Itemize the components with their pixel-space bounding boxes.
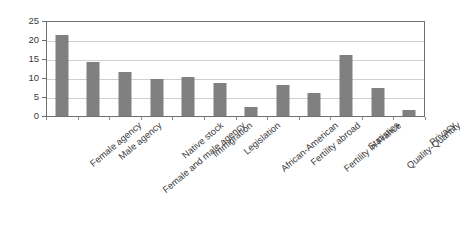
bar-slot bbox=[393, 21, 425, 116]
y-tick-label: 5 bbox=[34, 92, 39, 102]
bar[interactable] bbox=[118, 72, 131, 116]
bar-slot bbox=[78, 21, 110, 116]
bar-slot bbox=[299, 21, 331, 116]
bar-slot bbox=[267, 21, 299, 116]
x-axis-label-text: Statistics bbox=[367, 121, 402, 152]
x-axis-label: Statistics bbox=[367, 121, 402, 152]
bar-slot bbox=[141, 21, 173, 116]
bar-slot bbox=[204, 21, 236, 116]
y-tick-label: 15 bbox=[28, 54, 39, 64]
bar-slot bbox=[236, 21, 268, 116]
y-tick-label: 20 bbox=[28, 35, 39, 45]
x-tick-mark bbox=[425, 117, 426, 120]
x-axis-labels: Female agencyMale agencyFemale and male … bbox=[46, 116, 425, 225]
bar[interactable] bbox=[308, 93, 321, 116]
bar[interactable] bbox=[55, 35, 68, 116]
y-tick-label: 0 bbox=[34, 111, 39, 121]
y-tick-label: 10 bbox=[28, 73, 39, 83]
bar-slot bbox=[172, 21, 204, 116]
bar-slot bbox=[362, 21, 394, 116]
bar-slot bbox=[109, 21, 141, 116]
bars-group bbox=[46, 21, 425, 116]
y-tick-label: 25 bbox=[28, 16, 39, 26]
bar[interactable] bbox=[371, 88, 384, 116]
bar[interactable] bbox=[182, 77, 195, 116]
bar[interactable] bbox=[276, 85, 289, 116]
bar-slot bbox=[46, 21, 78, 116]
bar[interactable] bbox=[245, 107, 258, 116]
bar[interactable] bbox=[87, 62, 100, 116]
bar-slot bbox=[330, 21, 362, 116]
bar[interactable] bbox=[150, 79, 163, 116]
bar[interactable] bbox=[340, 55, 353, 116]
bar[interactable] bbox=[213, 83, 226, 116]
